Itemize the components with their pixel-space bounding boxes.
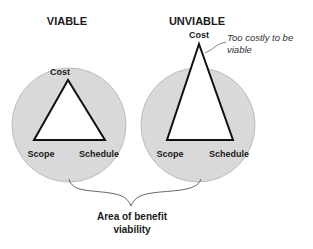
triangle-viability-diagram: VIABLE UNVIABLE Cost Scope Schedule Cost… [0, 0, 313, 249]
unviable-scope-label: Scope [156, 149, 183, 159]
viable-cost-label: Cost [50, 67, 70, 77]
viable-diagram: Cost Scope Schedule [12, 67, 126, 182]
footer-line-1: Area of benefit [97, 211, 168, 222]
annotation-line-2: viable [227, 44, 252, 55]
unviable-schedule-label: Schedule [209, 149, 249, 159]
viable-scope-label: Scope [27, 149, 54, 159]
viable-schedule-label: Schedule [79, 149, 119, 159]
unviable-diagram: Cost Scope Schedule Too costly to be via… [141, 30, 293, 182]
annotation-line-1: Too costly to be [227, 32, 293, 43]
curly-brace [69, 179, 201, 206]
viable-title: VIABLE [47, 15, 87, 27]
annotation-leader-line [205, 42, 226, 53]
footer-line-2: viability [113, 224, 151, 235]
unviable-title: UNVIABLE [169, 15, 225, 27]
unviable-cost-label: Cost [189, 30, 209, 40]
